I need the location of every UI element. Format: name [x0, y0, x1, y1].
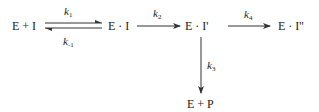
rate-constant-k-minus1: k-1 [63, 36, 74, 51]
rate-constant-k2: k2 [153, 8, 161, 23]
species-enzyme-plus-inhibitor: E + I [12, 20, 36, 32]
rate-constant-k3: k3 [207, 60, 215, 75]
species-enzyme-plus-product: E + P [187, 98, 214, 110]
species-ei-double-prime: E · I'' [278, 20, 304, 32]
species-ei-prime: E · I' [185, 20, 208, 32]
species-ei-complex: E · I [108, 20, 129, 32]
rate-constant-k4: k4 [244, 9, 252, 24]
equilibrium-arrow [45, 20, 102, 31]
rate-constant-k1: k1 [64, 6, 72, 21]
reaction-scheme-diagram: E + I E · I E · I' E · I'' E + P k1 k-1 … [0, 0, 319, 112]
